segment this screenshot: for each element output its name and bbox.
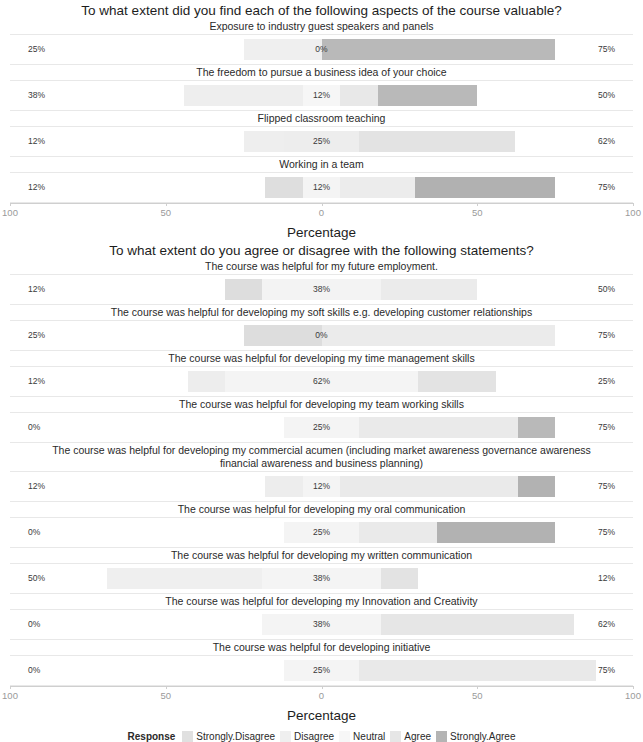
bar-value-right: 50% <box>598 90 615 100</box>
axis-tick-mark <box>166 686 167 689</box>
likert-row-label: The course was helpful for developing my… <box>0 548 643 563</box>
likert-row-label: Working in a team <box>0 157 643 172</box>
legend-title: Response <box>128 731 176 742</box>
bar-value-mid: 25% <box>10 665 633 675</box>
axis-tick-mark <box>477 686 478 689</box>
likert-bar: 0%25%75% <box>10 655 633 686</box>
bar-value-mid: 38% <box>10 619 633 629</box>
bar-value-mid: 25% <box>10 527 633 537</box>
likert-row: The course was helpful for developing my… <box>0 351 643 397</box>
axis-tick-label: 100 <box>625 207 641 218</box>
legend-label: Disagree <box>294 731 334 742</box>
chart-legend: ResponseStrongly.DisagreeDisagreeNeutral… <box>0 723 643 742</box>
bar-value-right: 62% <box>598 619 615 629</box>
bar-value-mid: 38% <box>10 284 633 294</box>
x-axis: 10050050100 <box>10 686 633 707</box>
axis-tick-mark <box>322 203 323 206</box>
likert-row-label: The course was helpful for developing my… <box>0 397 643 412</box>
legend-swatch-icon <box>436 731 447 742</box>
bar-value-right: 75% <box>598 665 615 675</box>
likert-row: The course was helpful for developing my… <box>0 397 643 443</box>
bar-value-right: 75% <box>598 481 615 491</box>
bar-value-mid: 25% <box>10 422 633 432</box>
likert-row-label: The course was helpful for developing in… <box>0 640 643 655</box>
bar-value-mid: 12% <box>10 90 633 100</box>
legend-item[interactable]: Agree <box>390 731 431 742</box>
chart-panel: To what extent did you find each of the … <box>0 0 643 240</box>
legend-swatch-icon <box>182 731 193 742</box>
likert-row-label: Exposure to industry guest speakers and … <box>0 19 643 34</box>
bar-value-mid: 12% <box>10 481 633 491</box>
axis-tick-mark <box>10 203 11 206</box>
bar-value-right: 75% <box>598 44 615 54</box>
likert-bar: 25%0%75% <box>10 34 633 65</box>
likert-row: The freedom to pursue a business idea of… <box>0 65 643 111</box>
likert-row: The course was helpful for my future emp… <box>0 259 643 305</box>
axis-tick-mark <box>322 686 323 689</box>
axis-tick-mark <box>633 203 634 206</box>
likert-bar: 12%12%75% <box>10 172 633 203</box>
bar-value-mid: 38% <box>10 573 633 583</box>
bar-value-right: 75% <box>598 182 615 192</box>
axis-tick-label: 100 <box>625 690 641 701</box>
legend-item[interactable]: Strongly.Disagree <box>182 731 275 742</box>
axis-tick-label: 0 <box>319 207 324 218</box>
likert-row-label: The course was helpful for developing my… <box>0 305 643 320</box>
likert-row-label: Flipped classroom teaching <box>0 111 643 126</box>
bar-value-right: 75% <box>598 422 615 432</box>
legend-label: Strongly.Disagree <box>196 731 275 742</box>
likert-row: The course was helpful for developing my… <box>0 502 643 548</box>
legend-label: Strongly.Agree <box>450 731 515 742</box>
bar-value-right: 25% <box>598 376 615 386</box>
likert-row: Working in a team12%12%75% <box>0 157 643 203</box>
likert-bar: 0%38%62% <box>10 609 633 640</box>
x-axis: 10050050100 <box>10 203 633 224</box>
panels-container: To what extent did you find each of the … <box>0 0 643 742</box>
panel-title: To what extent did you find each of the … <box>0 0 643 19</box>
bar-value-mid: 0% <box>10 44 633 54</box>
axis-tick-label: 50 <box>160 690 171 701</box>
likert-row: The course was helpful for developing my… <box>0 305 643 351</box>
bar-value-right: 75% <box>598 330 615 340</box>
axis-tick-label: 50 <box>472 690 483 701</box>
likert-row-label: The course was helpful for my future emp… <box>0 259 643 274</box>
legend-item[interactable]: Strongly.Agree <box>436 731 515 742</box>
x-axis-title: Percentage <box>0 224 643 240</box>
likert-bar: 12%12%75% <box>10 471 633 502</box>
likert-bar: 12%38%50% <box>10 274 633 305</box>
chart-panel: To what extent do you agree or disagree … <box>0 240 643 723</box>
likert-bar: 0%25%75% <box>10 412 633 443</box>
legend-swatch-icon <box>339 731 350 742</box>
x-axis-title: Percentage <box>0 707 643 723</box>
bar-value-right: 12% <box>598 573 615 583</box>
likert-bar: 50%38%12% <box>10 563 633 594</box>
bar-value-mid: 12% <box>10 182 633 192</box>
likert-bar: 38%12%50% <box>10 80 633 111</box>
legend-label: Neutral <box>353 731 385 742</box>
axis-tick-label: 0 <box>319 690 324 701</box>
axis-tick-mark <box>10 686 11 689</box>
legend-item[interactable]: Disagree <box>280 731 334 742</box>
likert-row: The course was helpful for developing my… <box>0 443 643 502</box>
legend-item[interactable]: Neutral <box>339 731 385 742</box>
axis-tick-label: 100 <box>2 207 18 218</box>
bar-value-right: 75% <box>598 527 615 537</box>
legend-swatch-icon <box>280 731 291 742</box>
legend-swatch-icon <box>390 731 401 742</box>
likert-row-label: The course was helpful for developing my… <box>0 351 643 366</box>
axis-tick-mark <box>166 203 167 206</box>
axis-tick-mark <box>633 686 634 689</box>
likert-bar: 25%0%75% <box>10 320 633 351</box>
likert-row-label: The freedom to pursue a business idea of… <box>0 65 643 80</box>
bar-value-mid: 62% <box>10 376 633 386</box>
bar-value-right: 50% <box>598 284 615 294</box>
likert-row: Exposure to industry guest speakers and … <box>0 19 643 65</box>
bar-value-mid: 25% <box>10 136 633 146</box>
likert-row-label: The course was helpful for developing my… <box>0 443 643 471</box>
axis-tick-mark <box>477 203 478 206</box>
likert-row: The course was helpful for developing my… <box>0 548 643 594</box>
likert-row: The course was helpful for developing in… <box>0 640 643 686</box>
likert-row: The course was helpful for developing my… <box>0 594 643 640</box>
axis-tick-label: 100 <box>2 690 18 701</box>
